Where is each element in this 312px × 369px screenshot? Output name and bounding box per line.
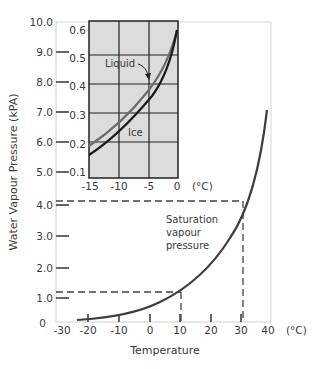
y-tick-0: 0	[39, 317, 46, 329]
x-tick-30: 30	[234, 324, 247, 336]
x-tick-20: 20	[204, 324, 217, 336]
main-x-tick-labels: -30 -20 -10 0 10 20 30 40	[53, 324, 274, 336]
y-tick-4: 4.0	[36, 199, 53, 211]
y-tick-3: 3.0	[36, 230, 53, 242]
inset-y-tick-labels: 0.6 0.5 0.4 0.3 0.2 0.1	[69, 24, 86, 178]
inset-y-0-6: 0.6	[69, 24, 86, 36]
ice-label: Ice	[128, 127, 143, 138]
vapour-pressure-chart: 10.0 9.0 8.0 7.0 6.0 5.0 4.0 3.0 2.0 1.0…	[0, 0, 312, 369]
y-tick-1: 1.0	[36, 292, 53, 304]
inset-x-m15: -15	[81, 180, 98, 192]
x-tick-40: 40	[261, 324, 274, 336]
annotation-line-3: pressure	[166, 240, 209, 251]
y-tick-5: 5.0	[36, 166, 53, 178]
inset-y-0-5: 0.5	[69, 52, 86, 64]
y-tick-8: 8.0	[36, 76, 53, 88]
main-y-tick-labels: 10.0 9.0 8.0 7.0 6.0 5.0 4.0 3.0 2.0 1.0…	[30, 16, 53, 329]
x-unit-label: (°C)	[286, 324, 307, 336]
y-tick-9: 9.0	[36, 46, 53, 58]
main-x-ticks	[88, 314, 241, 322]
x-tick-m10: -10	[110, 324, 127, 336]
annotation-line-1: Saturation	[166, 214, 218, 225]
inset-x-m10: -10	[110, 180, 127, 192]
y-tick-2: 2.0	[36, 262, 53, 274]
y-tick-6: 6.0	[36, 136, 53, 148]
inset-y-0-1: 0.1	[69, 166, 86, 178]
saturation-annotation: Saturation vapour pressure	[166, 214, 218, 251]
liquid-label: Liquid	[105, 58, 135, 69]
x-tick-m20: -20	[79, 324, 96, 336]
x-tick-10: 10	[173, 324, 186, 336]
x-axis-title: Temperature	[129, 344, 200, 357]
inset-y-0-3: 0.3	[69, 109, 86, 121]
y-axis-title: Water Vapour Pressure (kPA)	[7, 93, 20, 250]
inset-x-tick-labels: -15 -10 -5 0	[81, 180, 180, 192]
x-tick-m30: -30	[53, 324, 70, 336]
inset-y-0-4: 0.4	[69, 80, 86, 92]
x-tick-0: 0	[147, 324, 154, 336]
inset-frame	[89, 21, 178, 178]
inset-x-m5: -5	[144, 180, 154, 192]
inset-x-0: 0	[174, 180, 181, 192]
y-tick-7: 7.0	[36, 106, 53, 118]
main-y-ticks	[56, 52, 69, 298]
inset-chart: Liquid Ice 0.6 0.5 0.4 0.3 0.2 0.1 -15 -…	[69, 21, 212, 192]
inset-y-0-2: 0.2	[69, 138, 86, 150]
y-tick-10: 10.0	[30, 16, 53, 28]
inset-unit-label: (°C)	[192, 180, 213, 192]
annotation-line-2: vapour	[166, 227, 202, 238]
